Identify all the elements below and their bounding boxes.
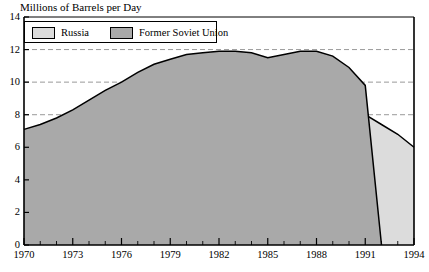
legend-label-russia: Russia bbox=[61, 27, 89, 38]
legend-item-russia[interactable]: Russia bbox=[32, 26, 89, 39]
legend-item-former-soviet-union[interactable]: Former Soviet Union bbox=[110, 26, 228, 39]
x-axis-label-1979: 1979 bbox=[150, 249, 190, 260]
y-axis-label-14: 14 bbox=[0, 12, 20, 23]
y-axis-label-10: 10 bbox=[0, 77, 20, 88]
x-axis-label-1970: 1970 bbox=[4, 249, 44, 260]
chart-container: Millions of Barrels per Day bbox=[0, 0, 429, 272]
chart-legend: Russia Former Soviet Union bbox=[24, 21, 217, 43]
russia-swatch bbox=[32, 27, 55, 39]
y-axis-label-12: 12 bbox=[0, 45, 20, 56]
legend-label-former-soviet-union: Former Soviet Union bbox=[139, 27, 228, 38]
y-axis-label-4: 4 bbox=[0, 175, 20, 186]
y-axis-label-2: 2 bbox=[0, 207, 20, 218]
y-axis-label-8: 8 bbox=[0, 110, 20, 121]
fsu-swatch bbox=[110, 27, 133, 39]
x-axis-label-1982: 1982 bbox=[199, 249, 239, 260]
x-axis-label-1976: 1976 bbox=[102, 249, 142, 260]
x-axis-label-1973: 1973 bbox=[53, 249, 93, 260]
x-axis-label-1991: 1991 bbox=[345, 249, 385, 260]
y-axis-label-6: 6 bbox=[0, 142, 20, 153]
x-axis-label-1994: 1994 bbox=[394, 249, 429, 260]
x-axis-label-1988: 1988 bbox=[297, 249, 337, 260]
x-axis-label-1985: 1985 bbox=[248, 249, 288, 260]
